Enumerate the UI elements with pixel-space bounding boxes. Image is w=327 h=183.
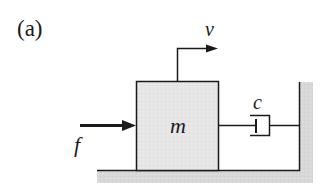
damper: c	[218, 91, 300, 136]
mass-block: m	[137, 82, 219, 171]
arrowhead-icon	[206, 45, 218, 53]
velocity-label: v	[205, 18, 214, 40]
force-arrow: f	[74, 120, 136, 157]
velocity-arrow: v	[178, 18, 219, 81]
damper-label: c	[253, 91, 262, 113]
panel-label: (a)	[17, 16, 43, 41]
wall	[300, 82, 314, 183]
mass-label: m	[170, 113, 186, 138]
mass-damper-diagram: (a) m f v c	[0, 0, 327, 183]
force-label: f	[74, 132, 83, 157]
ground	[97, 170, 313, 183]
arrowhead-icon	[122, 120, 136, 131]
